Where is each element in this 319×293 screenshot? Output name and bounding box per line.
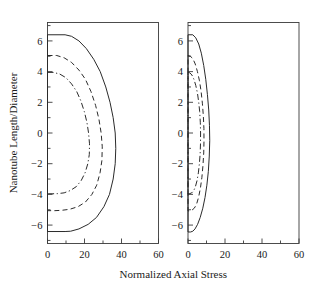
y-axis-title: Nanotube Length/Diameter: [7, 72, 19, 193]
x-tick-label: 0: [185, 249, 190, 260]
x-tick-label: 0: [45, 249, 50, 260]
y-tick-label: 0: [178, 128, 183, 139]
y-tick-label: 6: [37, 36, 42, 47]
left-panel-inner-dashdot-curve: [48, 72, 90, 193]
y-tick-label: −4: [172, 189, 184, 200]
left-panel-outer-solid-curve: [48, 35, 116, 232]
x-tick-label: 20: [220, 249, 231, 260]
x-tick-label: 20: [79, 249, 90, 260]
y-tick-label: 6: [178, 36, 183, 47]
x-tick-label: 60: [153, 249, 164, 260]
chart-svg: 0204060−6−4−202460204060−6−4−20246Normal…: [0, 0, 319, 293]
figure-container: 0204060−6−4−202460204060−6−4−20246Normal…: [0, 0, 319, 293]
right-panel: 0204060−6−4−20246: [172, 23, 304, 260]
y-tick-label: −6: [172, 220, 183, 231]
right-panel-frame: [188, 23, 299, 244]
x-axis-title: Normalized Axial Stress: [119, 268, 227, 280]
x-tick-label: 60: [294, 249, 305, 260]
y-tick-label: 4: [178, 66, 184, 77]
y-tick-label: 4: [37, 66, 43, 77]
left-panel: 0204060−6−4−20246: [31, 23, 163, 260]
y-tick-label: −2: [31, 158, 42, 169]
y-tick-label: 2: [178, 97, 183, 108]
y-tick-label: −6: [31, 220, 42, 231]
x-tick-label: 40: [257, 249, 268, 260]
x-tick-label: 40: [116, 249, 127, 260]
y-tick-label: −2: [172, 158, 183, 169]
y-tick-label: 0: [37, 128, 42, 139]
y-tick-label: −4: [31, 189, 43, 200]
y-tick-label: 2: [37, 97, 42, 108]
